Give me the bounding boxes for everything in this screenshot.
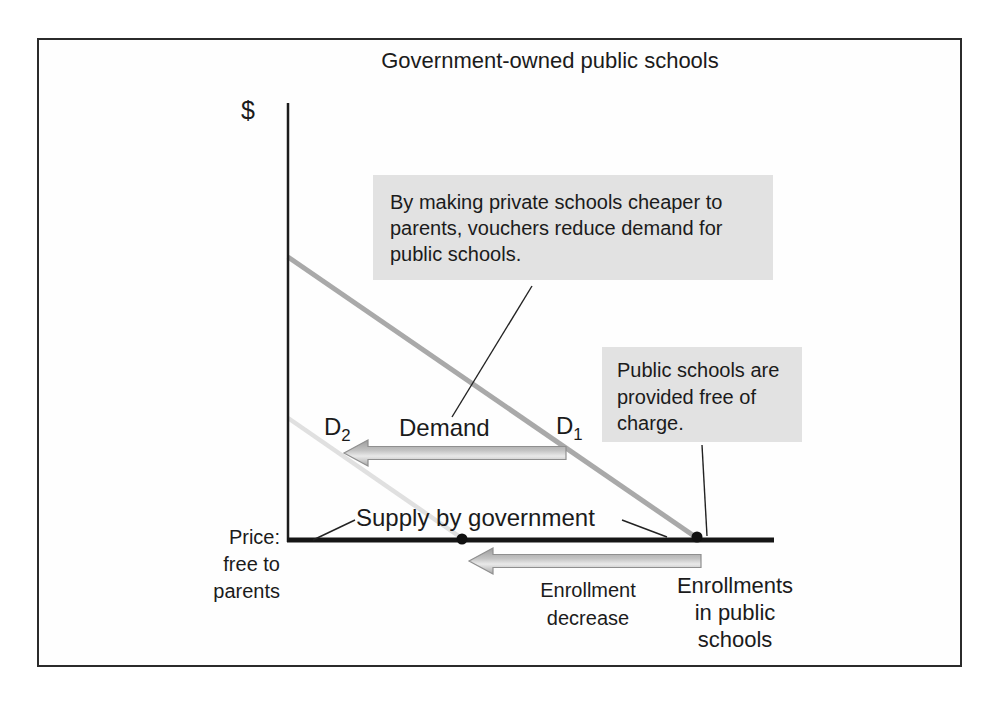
d2-base: D: [324, 413, 341, 440]
voucher-callout: By making private schools cheaper to par…: [373, 175, 773, 280]
x-axis-label-line: in public: [645, 599, 825, 626]
supply-label-pointer-right: [622, 520, 667, 537]
demand-shift-arrow: [344, 440, 566, 466]
d1-curve-label: D1: [556, 412, 583, 445]
figure-canvas: Government-owned public schools $ D2 Dem…: [0, 0, 993, 701]
supply-label: Supply by government: [356, 504, 595, 532]
voucher-callout-line: By making private schools cheaper to: [390, 189, 773, 215]
demand-label: Demand: [399, 414, 490, 442]
free-callout-line: provided free of: [617, 384, 802, 411]
price-note: Price: free to parents: [185, 524, 280, 605]
free-of-charge-callout: Public schools are provided free of char…: [602, 347, 802, 442]
price-note-line: free to: [185, 551, 280, 578]
d2-curve-label: D2: [324, 413, 351, 446]
d1-subscript: 1: [573, 425, 582, 444]
equilibrium-dot-d2: [457, 534, 468, 545]
figure-title: Government-owned public schools: [237, 48, 863, 74]
enrollment-decrease-line: decrease: [508, 604, 668, 632]
enrollment-decrease-label: Enrollment decrease: [508, 576, 668, 632]
d2-subscript: 2: [341, 426, 350, 445]
equilibrium-dot-d1: [692, 532, 703, 543]
y-axis-label: $: [241, 96, 255, 125]
free-callout-pointer: [702, 445, 707, 536]
diagram-graphics: [0, 0, 993, 701]
x-axis-label-line: schools: [645, 626, 825, 653]
supply-label-pointer-left: [313, 520, 355, 540]
enrollment-decrease-arrow: [469, 548, 701, 574]
enrollment-decrease-line: Enrollment: [508, 576, 668, 604]
voucher-callout-line: parents, vouchers reduce demand for: [390, 215, 773, 241]
x-axis-label-line: Enrollments: [645, 572, 825, 599]
free-callout-line: Public schools are: [617, 357, 802, 384]
d1-base: D: [556, 412, 573, 439]
voucher-callout-line: public schools.: [390, 241, 773, 267]
price-note-line: Price:: [185, 524, 280, 551]
x-axis-label: Enrollments in public schools: [645, 572, 825, 653]
free-callout-line: charge.: [617, 410, 802, 437]
price-note-line: parents: [185, 578, 280, 605]
